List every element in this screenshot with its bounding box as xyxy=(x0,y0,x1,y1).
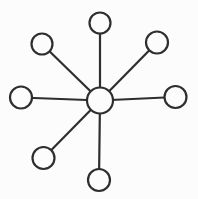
hub-circle xyxy=(87,88,113,114)
node-east-circle xyxy=(165,86,187,108)
node-south-west-circle xyxy=(33,147,55,169)
node-north-west-circle xyxy=(32,34,53,55)
diagram-canvas xyxy=(0,0,198,199)
hub-and-spoke-diagram xyxy=(0,0,198,199)
node-north-circle xyxy=(90,13,111,34)
node-north-east-circle xyxy=(146,32,168,54)
node-west-circle xyxy=(10,87,32,109)
node-south-circle xyxy=(88,169,110,191)
